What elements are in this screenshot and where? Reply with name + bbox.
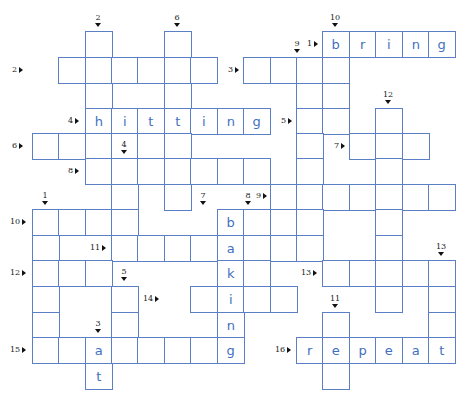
crossword-cell[interactable]: g	[243, 108, 271, 135]
crossword-cell[interactable]	[111, 158, 139, 185]
crossword-cell[interactable]: t	[428, 337, 456, 364]
crossword-cell[interactable]	[322, 363, 350, 390]
crossword-cell[interactable]	[190, 286, 218, 313]
crossword-cell[interactable]	[296, 108, 324, 135]
crossword-cell[interactable]: i	[375, 31, 403, 58]
crossword-cell[interactable]	[111, 286, 139, 313]
crossword-cell[interactable]	[322, 184, 350, 211]
crossword-cell[interactable]	[32, 133, 60, 160]
crossword-cell[interactable]	[349, 133, 377, 160]
crossword-cell[interactable]	[137, 133, 165, 160]
crossword-cell[interactable]	[296, 209, 324, 236]
crossword-cell[interactable]	[402, 260, 430, 287]
crossword-cell[interactable]	[375, 108, 403, 135]
crossword-cell[interactable]: e	[322, 337, 350, 364]
crossword-cell[interactable]	[164, 184, 192, 211]
crossword-cell[interactable]: t	[137, 108, 165, 135]
crossword-cell[interactable]	[428, 260, 456, 287]
crossword-cell[interactable]	[32, 337, 60, 364]
crossword-cell[interactable]	[296, 83, 324, 110]
crossword-cell[interactable]	[111, 337, 139, 364]
crossword-cell[interactable]: t	[85, 363, 113, 390]
crossword-cell[interactable]	[296, 133, 324, 160]
crossword-cell[interactable]: e	[375, 337, 403, 364]
crossword-cell[interactable]	[137, 235, 165, 262]
crossword-cell[interactable]	[111, 184, 139, 211]
crossword-cell[interactable]	[402, 133, 430, 160]
crossword-cell[interactable]	[375, 184, 403, 211]
crossword-cell[interactable]: n	[217, 108, 245, 135]
crossword-cell[interactable]: r	[296, 337, 324, 364]
crossword-cell[interactable]: p	[349, 337, 377, 364]
crossword-cell[interactable]	[375, 158, 403, 185]
crossword-cell[interactable]: t	[164, 108, 192, 135]
crossword-cell[interactable]	[164, 337, 192, 364]
crossword-cell[interactable]	[349, 260, 377, 287]
crossword-cell[interactable]	[190, 337, 218, 364]
crossword-cell[interactable]	[58, 133, 86, 160]
crossword-cell[interactable]	[322, 83, 350, 110]
crossword-cell[interactable]	[58, 209, 86, 236]
crossword-cell[interactable]: b	[322, 31, 350, 58]
crossword-cell[interactable]	[270, 286, 298, 313]
crossword-cell[interactable]	[243, 286, 271, 313]
crossword-cell[interactable]	[85, 260, 113, 287]
crossword-cell[interactable]	[270, 57, 298, 84]
crossword-cell[interactable]	[243, 260, 271, 287]
crossword-cell[interactable]	[402, 184, 430, 211]
crossword-cell[interactable]: i	[111, 108, 139, 135]
crossword-cell[interactable]	[428, 286, 456, 313]
crossword-cell[interactable]	[137, 57, 165, 84]
crossword-cell[interactable]	[190, 235, 218, 262]
crossword-cell[interactable]	[137, 337, 165, 364]
crossword-cell[interactable]	[296, 57, 324, 84]
crossword-cell[interactable]: r	[349, 31, 377, 58]
crossword-cell[interactable]	[375, 235, 403, 262]
crossword-cell[interactable]	[58, 337, 86, 364]
crossword-cell[interactable]	[375, 286, 403, 313]
crossword-cell[interactable]	[375, 260, 403, 287]
crossword-cell[interactable]	[349, 184, 377, 211]
crossword-cell[interactable]	[428, 184, 456, 211]
crossword-cell[interactable]	[58, 260, 86, 287]
crossword-cell[interactable]	[217, 158, 245, 185]
crossword-cell[interactable]	[296, 184, 324, 211]
crossword-cell[interactable]	[137, 158, 165, 185]
crossword-cell[interactable]	[32, 235, 60, 262]
crossword-cell[interactable]	[322, 57, 350, 84]
crossword-cell[interactable]: a	[217, 235, 245, 262]
crossword-cell[interactable]	[164, 83, 192, 110]
crossword-cell[interactable]: a	[85, 337, 113, 364]
crossword-cell[interactable]	[85, 31, 113, 58]
crossword-cell[interactable]	[85, 57, 113, 84]
crossword-cell[interactable]	[296, 235, 324, 262]
crossword-cell[interactable]: a	[402, 337, 430, 364]
crossword-cell[interactable]	[32, 260, 60, 287]
crossword-cell[interactable]	[85, 158, 113, 185]
crossword-cell[interactable]: g	[217, 337, 245, 364]
crossword-cell[interactable]	[164, 31, 192, 58]
crossword-cell[interactable]	[190, 57, 218, 84]
crossword-cell[interactable]: b	[217, 209, 245, 236]
crossword-cell[interactable]	[164, 57, 192, 84]
crossword-cell[interactable]	[32, 312, 60, 339]
crossword-cell[interactable]	[243, 235, 271, 262]
crossword-cell[interactable]	[58, 57, 86, 84]
crossword-cell[interactable]	[32, 209, 60, 236]
crossword-cell[interactable]	[243, 57, 271, 84]
crossword-cell[interactable]: i	[217, 286, 245, 313]
crossword-cell[interactable]	[190, 158, 218, 185]
crossword-cell[interactable]	[111, 312, 139, 339]
crossword-cell[interactable]	[111, 57, 139, 84]
crossword-cell[interactable]	[322, 108, 350, 135]
crossword-cell[interactable]	[111, 209, 139, 236]
crossword-cell[interactable]	[164, 235, 192, 262]
crossword-cell[interactable]: g	[428, 31, 456, 58]
crossword-cell[interactable]: h	[85, 108, 113, 135]
crossword-cell[interactable]	[270, 184, 298, 211]
crossword-cell[interactable]	[270, 209, 298, 236]
crossword-cell[interactable]	[85, 209, 113, 236]
crossword-cell[interactable]	[296, 158, 324, 185]
crossword-cell[interactable]: k	[217, 260, 245, 287]
crossword-cell[interactable]	[243, 209, 271, 236]
